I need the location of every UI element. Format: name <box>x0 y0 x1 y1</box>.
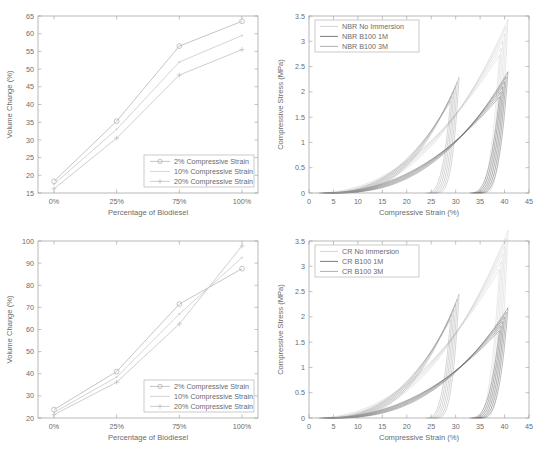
svg-text:40: 40 <box>501 422 509 431</box>
svg-text:2: 2 <box>301 87 305 96</box>
svg-text:40: 40 <box>26 369 34 378</box>
svg-text:40: 40 <box>501 197 509 206</box>
svg-text:75%: 75% <box>172 422 187 431</box>
svg-text:3: 3 <box>301 37 305 46</box>
panel-nbr-stress-strain: 00.511.522.533.5051015202530354045Compre… <box>271 0 542 225</box>
cr-stress-strain-plot: 00.511.522.533.5051015202530354045Compre… <box>271 225 542 450</box>
svg-text:20: 20 <box>26 414 34 423</box>
svg-text:0%: 0% <box>49 422 60 431</box>
svg-text:60: 60 <box>26 29 34 38</box>
legend-label: 2% Compressive Strain <box>174 382 249 391</box>
svg-text:30: 30 <box>26 391 34 400</box>
svg-text:35: 35 <box>26 118 34 127</box>
svg-text:50: 50 <box>26 65 34 74</box>
svg-text:100%: 100% <box>233 422 252 431</box>
svg-text:10: 10 <box>354 422 362 431</box>
svg-text:15: 15 <box>378 422 386 431</box>
svg-text:25: 25 <box>427 422 435 431</box>
svg-text:30: 30 <box>26 136 34 145</box>
data-point-marker <box>53 183 55 185</box>
legend-label: CR B100 3M <box>342 267 383 276</box>
svg-text:Volume Change (%): Volume Change (%) <box>5 70 14 138</box>
svg-text:20: 20 <box>403 422 411 431</box>
panel-cr-stress-strain: 00.511.522.533.5051015202530354045Compre… <box>271 225 542 450</box>
svg-text:80: 80 <box>26 281 34 290</box>
svg-text:65: 65 <box>26 12 34 21</box>
svg-text:25%: 25% <box>109 197 124 206</box>
svg-text:75%: 75% <box>172 197 187 206</box>
legend[interactable]: CR No ImmersionCR B100 1MCR B100 3M <box>315 245 419 277</box>
svg-text:35: 35 <box>476 197 484 206</box>
svg-text:25: 25 <box>427 197 435 206</box>
legend-label: NBR B100 1M <box>342 32 388 41</box>
svg-text:0: 0 <box>301 189 305 198</box>
legend-label: CR No Immersion <box>342 247 399 256</box>
svg-text:2: 2 <box>301 312 305 321</box>
svg-text:3: 3 <box>301 262 305 271</box>
svg-text:40: 40 <box>26 100 34 109</box>
svg-text:Compressive Stress (MPa): Compressive Stress (MPa) <box>276 284 285 375</box>
legend[interactable]: NBR No ImmersionNBR B100 1MNBR B100 3M <box>315 20 419 52</box>
svg-text:1.5: 1.5 <box>295 338 305 347</box>
svg-text:Compressive Stress (MPa): Compressive Stress (MPa) <box>276 59 285 150</box>
svg-text:60: 60 <box>26 325 34 334</box>
data-point-marker <box>116 376 118 378</box>
svg-text:Percentage of Biodiesel: Percentage of Biodiesel <box>108 208 189 217</box>
legend-label: NBR No Immersion <box>342 22 404 31</box>
legend-label: CR B100 1M <box>342 257 383 266</box>
legend-label: 10% Compressive Strain <box>174 392 253 401</box>
data-point-marker <box>116 128 118 130</box>
panel-cr-volume-change: 20304050607080901000%25%75%100%Percentag… <box>0 225 271 450</box>
svg-text:0: 0 <box>307 422 311 431</box>
svg-text:55: 55 <box>26 47 34 56</box>
svg-text:50: 50 <box>26 347 34 356</box>
svg-text:5: 5 <box>331 422 335 431</box>
legend-label: 20% Compressive Strain <box>174 177 253 186</box>
legend-label: 10% Compressive Strain <box>174 167 253 176</box>
svg-text:30: 30 <box>452 197 460 206</box>
svg-text:1: 1 <box>301 363 305 372</box>
svg-text:30: 30 <box>452 422 460 431</box>
svg-text:0: 0 <box>307 197 311 206</box>
data-point-marker <box>178 61 180 63</box>
legend[interactable]: 2% Compressive Strain10% Compressive Str… <box>144 380 254 412</box>
svg-text:0: 0 <box>301 414 305 423</box>
legend-label: NBR B100 3M <box>342 42 388 51</box>
svg-text:Volume Change (%): Volume Change (%) <box>5 295 14 363</box>
data-point-marker <box>241 257 243 259</box>
cr-volume-change-plot: 20304050607080901000%25%75%100%Percentag… <box>0 225 271 450</box>
svg-text:90: 90 <box>26 259 34 268</box>
svg-text:20: 20 <box>403 197 411 206</box>
svg-text:5: 5 <box>331 197 335 206</box>
panel-nbr-volume-change: 15202530354045505560650%25%75%100%Percen… <box>0 0 271 225</box>
svg-text:1.5: 1.5 <box>295 113 305 122</box>
data-point-marker <box>241 35 243 37</box>
svg-text:0%: 0% <box>49 197 60 206</box>
svg-text:20: 20 <box>26 171 34 180</box>
svg-text:Compressive Strain (%): Compressive Strain (%) <box>379 208 460 217</box>
svg-text:45: 45 <box>525 422 533 431</box>
data-point-marker <box>178 313 180 315</box>
nbr-volume-change-plot: 15202530354045505560650%25%75%100%Percen… <box>0 0 271 225</box>
svg-text:15: 15 <box>378 197 386 206</box>
svg-text:15: 15 <box>26 189 34 198</box>
svg-text:10: 10 <box>354 197 362 206</box>
svg-text:3.5: 3.5 <box>295 237 305 246</box>
svg-text:45: 45 <box>26 82 34 91</box>
svg-text:35: 35 <box>476 422 484 431</box>
legend-label: 2% Compressive Strain <box>174 157 249 166</box>
svg-text:25%: 25% <box>109 422 124 431</box>
svg-text:3.5: 3.5 <box>295 12 305 21</box>
legend[interactable]: 2% Compressive Strain10% Compressive Str… <box>144 155 254 187</box>
svg-text:0.5: 0.5 <box>295 163 305 172</box>
svg-text:2.5: 2.5 <box>295 287 305 296</box>
svg-text:45: 45 <box>525 197 533 206</box>
svg-text:Compressive Strain (%): Compressive Strain (%) <box>379 433 460 442</box>
legend-label: 20% Compressive Strain <box>174 402 253 411</box>
figure-container: 15202530354045505560650%25%75%100%Percen… <box>0 0 542 450</box>
svg-text:2.5: 2.5 <box>295 62 305 71</box>
svg-text:1: 1 <box>301 138 305 147</box>
svg-text:100: 100 <box>22 237 34 246</box>
svg-text:100%: 100% <box>233 197 252 206</box>
svg-text:25: 25 <box>26 153 34 162</box>
